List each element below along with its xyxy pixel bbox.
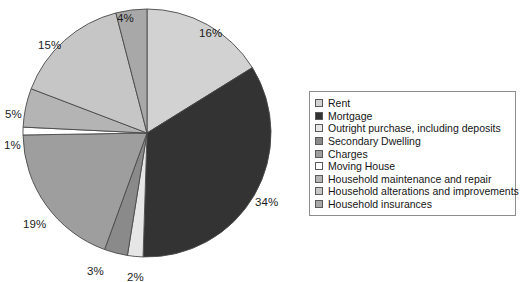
legend-color-swatch-icon [315, 200, 323, 208]
legend-color-swatch-icon [315, 124, 323, 132]
legend-item-label: Household insurances [328, 198, 432, 210]
legend-item-label: Mortgage [328, 110, 372, 122]
legend-color-swatch-icon [315, 162, 323, 170]
legend-item-label: Charges [328, 148, 368, 160]
slice-percentage-label: 3% [87, 265, 104, 277]
slice-percentage-label: 5% [5, 108, 22, 120]
slice-percentage-label: 19% [23, 218, 46, 230]
slice-percentage-label: 34% [255, 196, 278, 208]
legend-color-swatch-icon [315, 187, 323, 195]
slice-percentage-label: 1% [4, 139, 21, 151]
legend-item: Secondary Dwelling [315, 135, 509, 148]
legend-item-label: Secondary Dwelling [328, 135, 421, 147]
slice-percentage-label: 4% [117, 12, 134, 24]
legend-item: Household alterations and improvements [315, 185, 509, 198]
pie-chart-figure: 16%34%2%3%19%1%5%15%4% RentMortgageOutri… [0, 0, 525, 282]
legend-color-swatch-icon [315, 150, 323, 158]
legend-item: Rent [315, 97, 509, 110]
legend-color-swatch-icon [315, 112, 323, 120]
legend-item: Mortgage [315, 110, 509, 123]
slice-percentage-label: 15% [38, 39, 61, 51]
legend-color-swatch-icon [315, 99, 323, 107]
legend-item: Outright purchase, including deposits [315, 122, 509, 135]
pie-plot-area: 16%34%2%3%19%1%5%15%4% [0, 0, 300, 282]
legend-item: Charges [315, 147, 509, 160]
slice-percentage-label: 2% [127, 271, 144, 282]
legend-color-swatch-icon [315, 175, 323, 183]
legend-item-label: Household maintenance and repair [328, 173, 491, 185]
legend-item-label: Rent [328, 97, 350, 109]
chart-legend: RentMortgageOutright purchase, including… [309, 91, 516, 216]
legend-item: Household insurances [315, 198, 509, 211]
legend-item: Moving House [315, 160, 509, 173]
legend-color-swatch-icon [315, 137, 323, 145]
legend-item: Household maintenance and repair [315, 173, 509, 186]
legend-item-label: Moving House [328, 160, 395, 172]
legend-item-label: Household alterations and improvements [328, 185, 519, 197]
slice-percentage-label: 16% [199, 27, 222, 39]
legend-item-label: Outright purchase, including deposits [328, 122, 501, 134]
